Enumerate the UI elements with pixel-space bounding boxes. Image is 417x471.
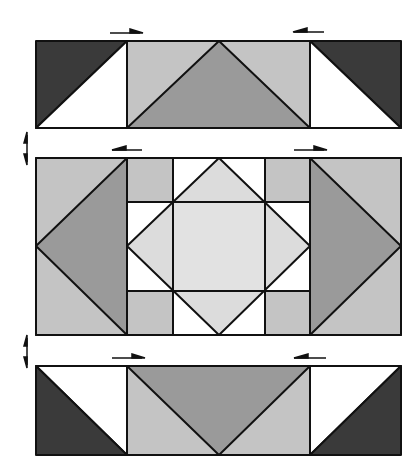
arrow-left-icon (294, 354, 326, 358)
arrow-left-icon (112, 146, 142, 150)
double-arrow-icon (24, 335, 27, 368)
double-arrow-icon (24, 132, 27, 165)
arrow-right-icon (294, 146, 327, 150)
top-row (36, 41, 401, 128)
arrow-left-icon (293, 28, 324, 32)
center-square (173, 202, 265, 291)
arrow-right-icon (110, 29, 143, 33)
corner-square-br (265, 291, 310, 335)
bottom-row (36, 366, 401, 455)
corner-square-tl (127, 158, 173, 202)
middle-row (36, 158, 401, 335)
quilt-diagram (0, 0, 417, 471)
corner-square-bl (127, 291, 173, 335)
arrow-right-icon (112, 354, 145, 358)
corner-square-tr (265, 158, 310, 202)
